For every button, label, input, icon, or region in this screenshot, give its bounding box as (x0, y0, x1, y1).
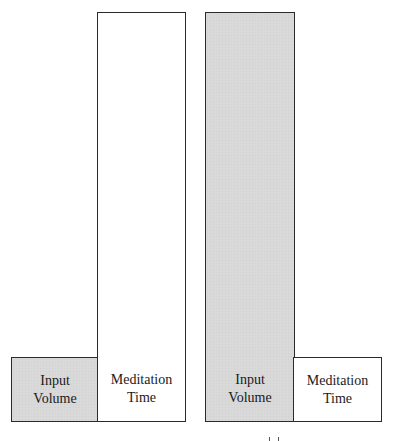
right-meditation-time-label: Meditation Time (307, 372, 368, 408)
right-input-volume-bar: Input Volume (205, 12, 295, 422)
left-input-volume-bar: Input Volume (11, 357, 99, 422)
left-input-volume-label: Input Volume (33, 372, 76, 408)
right-input-volume-label: Input Volume (228, 371, 271, 407)
cropped-glyph-fragment (269, 437, 279, 441)
left-meditation-time-label: Meditation Time (111, 371, 172, 407)
left-meditation-time-bar: Meditation Time (97, 12, 186, 422)
right-meditation-time-bar: Meditation Time (293, 357, 382, 422)
